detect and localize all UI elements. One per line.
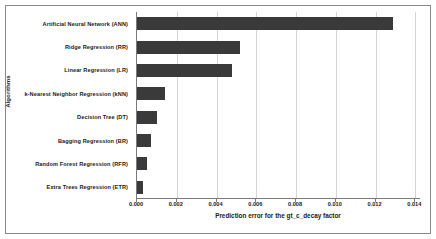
plot-area — [136, 12, 420, 199]
bar-row — [137, 176, 143, 198]
x-tick-mark — [375, 199, 376, 202]
bar-row — [137, 35, 240, 58]
category-label: Artificial Neural Network (ANN) — [8, 12, 128, 35]
x-tick-mark — [176, 199, 177, 202]
bar — [137, 64, 232, 77]
category-label: Linear Regression (LR) — [8, 59, 128, 82]
chart-figure: Algorithms Artificial Neural Network (AN… — [0, 0, 436, 239]
bar — [137, 134, 151, 147]
x-tick-mark — [295, 199, 296, 202]
category-label: Ridge Regression (RR) — [8, 35, 128, 58]
x-tick-mark — [414, 199, 415, 202]
x-tick-mark — [255, 199, 256, 202]
category-label: Decision Tree (DT) — [8, 106, 128, 129]
bar-row — [137, 82, 165, 105]
x-tick-mark — [335, 199, 336, 202]
bar-row — [137, 152, 147, 175]
bar-row — [137, 129, 151, 152]
bar — [137, 17, 393, 30]
bar-row — [137, 12, 393, 35]
bar — [137, 111, 157, 124]
bar-series — [137, 12, 420, 198]
bar-row — [137, 106, 157, 129]
category-label: Bagging Regression (BR) — [8, 129, 128, 152]
bar — [137, 157, 147, 170]
category-labels: Artificial Neural Network (ANN)Ridge Reg… — [12, 12, 132, 199]
category-label: Extra Trees Regression (ETR) — [8, 176, 128, 199]
category-label: Random Forest Regression (RFR) — [8, 152, 128, 175]
x-axis-label: Prediction error for the gt_c_decay fact… — [136, 212, 420, 219]
x-tick-mark — [136, 199, 137, 202]
bar — [137, 87, 165, 100]
x-tick-mark — [216, 199, 217, 202]
bar — [137, 41, 240, 54]
category-label: k-Nearest Neighbor Regression (kNN) — [8, 82, 128, 105]
bar — [137, 181, 143, 194]
bar-row — [137, 59, 232, 82]
